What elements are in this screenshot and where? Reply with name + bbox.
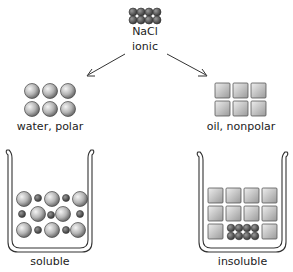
nacl-lattice: [129, 8, 161, 24]
soluble-label: soluble: [10, 255, 90, 268]
water-molecules: [25, 84, 76, 117]
insoluble-label: insoluble: [200, 255, 285, 268]
ionic-label: ionic: [125, 40, 165, 53]
solution-water-nacl: [17, 192, 88, 238]
arrow-to-water: [87, 54, 125, 76]
mixture-oil-nacl: [208, 188, 277, 240]
arrow-to-oil: [167, 54, 207, 76]
oil-molecules: [215, 83, 266, 116]
oil-nonpolar-label: oil, nonpolar: [196, 120, 286, 133]
water-polar-label: water, polar: [5, 120, 95, 133]
nacl-formula-label: NaCl: [125, 25, 165, 38]
